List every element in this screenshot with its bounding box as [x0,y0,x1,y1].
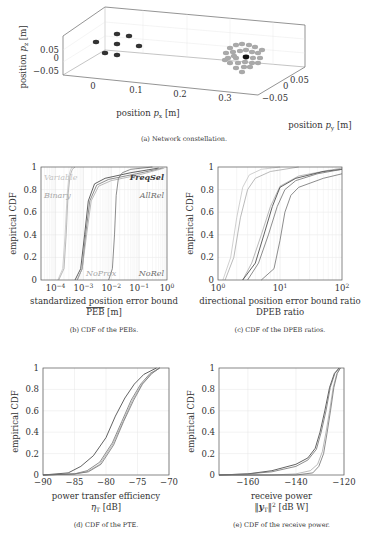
e-series [219,368,340,475]
a-ylabel: position py [m] [288,120,351,132]
series-line-s3 [243,168,342,280]
c-ylabel: empirical CDF [185,192,195,255]
figure-canvas: 0.05 0 −0.05 0 0.1 0.2 0.3 0.05 0 −0.05 … [0,0,369,542]
svg-text:−80: −80 [97,477,115,487]
svg-text:1: 1 [32,162,37,172]
svg-text:10−4: 10−4 [46,282,66,293]
svg-text:10−2: 10−2 [101,282,121,293]
c-xlabel: directional position error bound ratio [199,296,360,306]
e-y-ticks: 00.20.40.60.81 [201,363,215,480]
e-xlabel: receive power [251,491,313,501]
svg-text:10−1: 10−1 [129,282,149,293]
svg-text:−0.05: −0.05 [33,66,59,76]
series-line-variable [58,167,73,280]
svg-text:0.8: 0.8 [201,384,215,394]
caption-a: (a) Network constellation. [141,135,227,143]
legend-freqsel: FreqSel [129,172,164,182]
svg-text:0.2: 0.2 [173,89,187,99]
svg-text:0.4: 0.4 [23,230,37,240]
svg-text:101: 101 [273,282,288,293]
svg-text:0.6: 0.6 [201,406,215,416]
series-line-s1 [43,368,156,475]
svg-text:−85: −85 [66,477,84,487]
svg-text:0.8: 0.8 [23,185,37,195]
d-series [43,368,160,475]
b-x-ticks: 10−410−310−210−1100 [46,282,175,293]
reference-point [243,55,250,60]
series-line-allrel [77,168,163,280]
svg-text:−75: −75 [129,477,147,487]
svg-text:−90: −90 [34,477,52,487]
series-line-freqsel [75,168,159,280]
c-series [223,167,342,280]
svg-text:10−3: 10−3 [74,282,94,293]
svg-text:1: 1 [209,162,214,172]
series-line-norel [109,167,153,280]
svg-text:0.4: 0.4 [201,427,215,437]
series-line-s4 [243,169,342,280]
svg-text:100: 100 [211,282,226,293]
b-xlabel: standardized position error bound [30,296,178,306]
svg-text:0.2: 0.2 [23,252,37,262]
svg-text:−0.05: −0.05 [262,93,288,103]
d-xlabel: power transfer efficiency [52,491,160,501]
svg-text:1: 1 [34,363,39,373]
svg-text:0.3: 0.3 [218,93,232,103]
panel-peb-cdf: 00.20.40.60.8110−410−310−210−1100empiric… [8,162,178,334]
svg-text:0.05: 0.05 [290,75,309,85]
e-ylabel: empirical CDF [186,390,196,453]
a-y-ticks: 0.05 0 −0.05 [262,75,309,103]
caption-d: (d) CDF of the PTE. [74,521,139,529]
svg-text:0.1: 0.1 [129,85,143,95]
caption-b: (b) CDF of the PEBs. [70,326,138,334]
svg-text:0.8: 0.8 [200,185,214,195]
c-x-ticks: 100101102 [211,282,350,293]
a-z-ticks: 0.05 0 −0.05 [33,45,59,76]
d-y-ticks: 00.20.40.60.81 [25,363,39,480]
svg-text:−70: −70 [160,477,178,487]
svg-text:0.2: 0.2 [200,252,214,262]
caption-c: (c) CDF of the DPEB ratios. [235,326,326,334]
svg-text:1: 1 [210,363,215,373]
svg-text:−120: −120 [332,477,355,487]
svg-text:0: 0 [283,81,288,91]
svg-text:0.4: 0.4 [25,427,39,437]
d-grid [43,368,169,475]
caption-e: (e) CDF of the receive power. [233,521,330,529]
legend-binary: Binary [43,191,71,200]
svg-text:0.4: 0.4 [200,230,214,240]
svg-text:0.8: 0.8 [25,384,39,394]
svg-text:0.6: 0.6 [23,207,37,217]
e-axes-frame [219,368,344,475]
c-y-ticks: 00.20.40.60.81 [200,162,214,285]
3d-box-frame [63,7,305,95]
svg-text:0.2: 0.2 [25,449,39,459]
d-x-ticks: −90−85−80−75−70 [34,477,178,487]
anchor-points [93,32,142,57]
svg-text:0: 0 [210,470,215,480]
svg-text:−160: −160 [236,477,259,487]
c-grid [218,167,342,280]
svg-text:0: 0 [90,81,95,91]
legend-norel: NoRel [138,269,165,278]
d-xlabel2: ηT [dB] [91,502,121,513]
a-xlabel: position px [m] [116,108,179,119]
b-ylabel: empirical CDF [8,192,18,255]
svg-text:102: 102 [335,282,350,293]
svg-text:0.6: 0.6 [25,406,39,416]
svg-text:0.2: 0.2 [201,449,215,459]
legend-variable: Variable [44,173,78,182]
svg-text:0: 0 [54,53,59,63]
panel-network-constellation: 0.05 0 −0.05 0 0.1 0.2 0.3 0.05 0 −0.05 … [18,7,352,143]
legend-noprox: NoProx [85,269,117,278]
e-grid [219,368,344,475]
svg-text:100: 100 [160,282,175,293]
b-y-ticks: 00.20.40.60.81 [23,162,37,285]
panel-pte-cdf: 00.20.40.60.81−90−85−80−75−70empirical C… [10,363,178,529]
panel-receive-power-cdf: 00.20.40.60.81−160−140−120empirical CDFr… [186,363,356,529]
series-line-s4 [43,368,160,475]
b-xlabel2: PEB [m] [86,307,122,317]
legend-allrel: AllRel [139,191,165,200]
d-ylabel: empirical CDF [10,390,20,453]
e-xlabel2: ‖yT‖2 [dB W] [255,501,309,513]
